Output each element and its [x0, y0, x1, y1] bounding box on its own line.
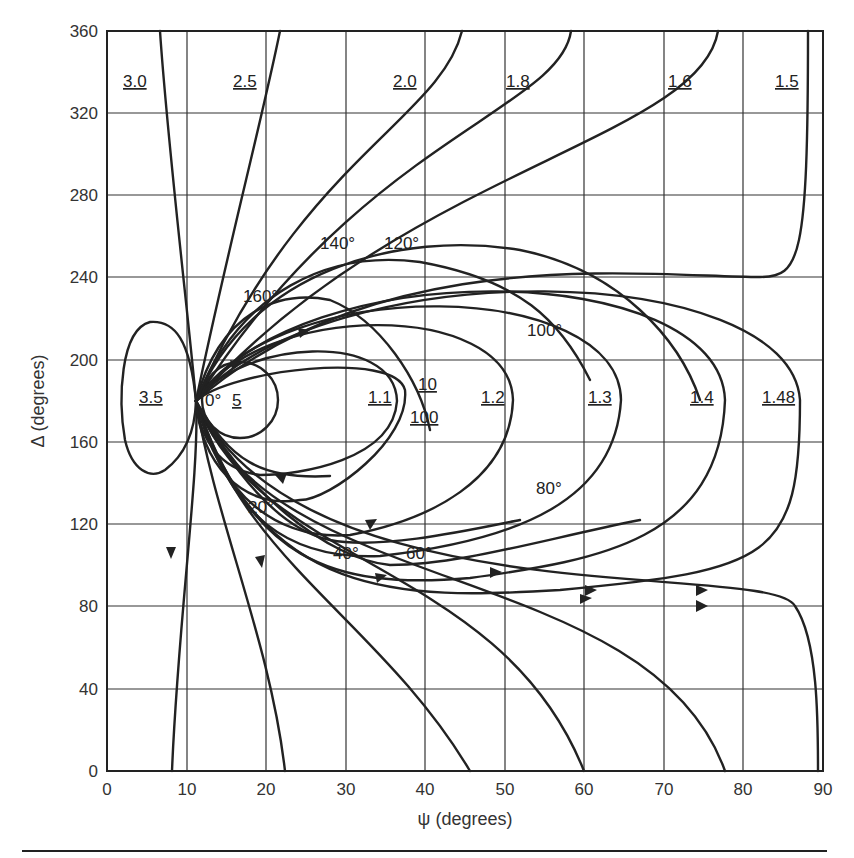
- svg-text:1.1: 1.1: [368, 388, 392, 407]
- svg-text:30: 30: [337, 780, 356, 799]
- svg-text:40°: 40°: [333, 544, 359, 563]
- svg-text:80: 80: [79, 597, 98, 616]
- svg-text:120: 120: [70, 515, 98, 534]
- svg-text:70: 70: [655, 780, 674, 799]
- svg-text:60: 60: [575, 780, 594, 799]
- chart-canvas: 0 40 80 120 160 200 240 280 320 360 0 10…: [0, 0, 854, 858]
- svg-text:2.0: 2.0: [393, 72, 417, 91]
- bottom-rule: [22, 850, 827, 852]
- svg-text:1.2: 1.2: [481, 388, 505, 407]
- x-axis-title: ψ (degrees): [418, 809, 513, 829]
- svg-text:10: 10: [178, 780, 197, 799]
- svg-text:20: 20: [257, 780, 276, 799]
- svg-text:140°: 140°: [320, 234, 355, 253]
- svg-text:1.6: 1.6: [668, 72, 692, 91]
- y-axis-ticks: 0 40 80 120 160 200 240 280 320 360: [70, 22, 98, 781]
- svg-text:5: 5: [232, 391, 241, 410]
- svg-text:3.5: 3.5: [139, 388, 163, 407]
- svg-text:0: 0: [89, 762, 98, 781]
- y-axis-title: Δ (degrees): [28, 354, 48, 447]
- svg-text:1.8: 1.8: [506, 72, 530, 91]
- svg-text:100°: 100°: [527, 321, 562, 340]
- svg-text:0: 0: [102, 780, 111, 799]
- svg-text:320: 320: [70, 104, 98, 123]
- svg-text:1.5: 1.5: [775, 72, 799, 91]
- svg-text:360: 360: [70, 22, 98, 41]
- svg-text:50: 50: [496, 780, 515, 799]
- svg-text:0°: 0°: [205, 391, 221, 410]
- flow-arrows: [166, 328, 708, 612]
- svg-text:100: 100: [410, 408, 438, 427]
- svg-text:240: 240: [70, 268, 98, 287]
- svg-text:2.5: 2.5: [233, 72, 257, 91]
- svg-text:90: 90: [814, 780, 833, 799]
- svg-text:60°: 60°: [406, 544, 432, 563]
- svg-text:40: 40: [416, 780, 435, 799]
- svg-text:40: 40: [79, 680, 98, 699]
- svg-text:160: 160: [70, 433, 98, 452]
- svg-text:200: 200: [70, 351, 98, 370]
- svg-text:1.4: 1.4: [690, 388, 714, 407]
- svg-text:80: 80: [734, 780, 753, 799]
- svg-text:280: 280: [70, 186, 98, 205]
- svg-text:20°: 20°: [248, 498, 274, 517]
- x-axis-ticks: 0 10 20 30 40 50 60 70 80 90: [102, 780, 832, 799]
- svg-text:80°: 80°: [536, 479, 562, 498]
- svg-text:3.0: 3.0: [123, 72, 147, 91]
- svg-text:120°: 120°: [384, 234, 419, 253]
- svg-text:1.48: 1.48: [762, 388, 795, 407]
- svg-text:10: 10: [418, 375, 437, 394]
- svg-text:1.3: 1.3: [588, 388, 612, 407]
- svg-text:160°: 160°: [243, 287, 278, 306]
